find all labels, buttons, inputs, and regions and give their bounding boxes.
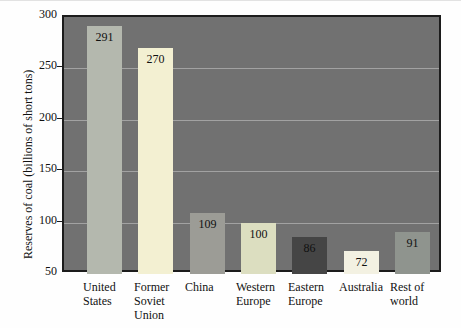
bar-china: 109 [190,213,225,274]
y-tick-mark [57,169,62,170]
y-tick-label: 100 [0,213,57,228]
bar-australia: 72 [344,251,379,274]
x-tick-label: FormerSovietUnion [134,280,169,322]
bar-value-label: 72 [344,255,379,270]
bar-chart: Reserves of coal (billions of short tons… [0,0,461,328]
x-tick-label: EasternEurope [288,280,324,308]
x-tick-label: Rest ofworld [390,280,424,308]
bar-value-label: 100 [241,227,276,242]
x-tick-label: WesternEurope [236,280,275,308]
y-tick-label: 150 [0,161,57,176]
y-tick-label: 50 [0,264,57,279]
bar-value-label: 270 [138,52,173,67]
bar-value-label: 109 [190,217,225,232]
x-tick-label: China [185,280,214,294]
y-tick-label: 300 [0,7,57,22]
bar-western-europe: 100 [241,223,276,274]
x-tick-label: Australia [339,280,383,294]
y-tick-mark [57,118,62,119]
bar-united-states: 291 [87,26,122,274]
bar-eastern-europe: 86 [292,237,327,274]
x-tick-label: UnitedStates [83,280,116,308]
y-tick-label: 200 [0,110,57,125]
bar-value-label: 91 [395,236,430,251]
y-tick-label: 250 [0,58,57,73]
bar-value-label: 86 [292,241,327,256]
y-tick-mark [57,66,62,67]
bar-rest-of-world: 91 [395,232,430,274]
plot-area: 291270109100867291 [62,15,441,272]
bar-former-soviet-union: 270 [138,48,173,274]
y-tick-mark [57,221,62,222]
bar-value-label: 291 [87,30,122,45]
